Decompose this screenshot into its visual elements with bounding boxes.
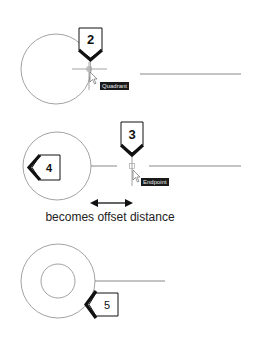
callout-3-number: 3: [128, 127, 135, 142]
step2-group: 3 4: [23, 122, 241, 207]
cursor-arrow-icon-2: [133, 170, 140, 182]
callout-2-number: 2: [87, 32, 94, 47]
circle-3-outer: [21, 244, 95, 318]
callout-2: 2: [79, 28, 102, 60]
callout-3: 3: [121, 122, 143, 155]
step3-group: 5: [21, 244, 165, 318]
offset-distance-caption: becomes offset distance: [0, 210, 220, 224]
circle-3-inner: [41, 264, 75, 298]
endpoint-snap-tooltip: Endpoint: [141, 178, 169, 186]
callout-5-number: 5: [104, 299, 110, 311]
step1-group: 2: [21, 28, 241, 104]
callout-5: 5: [86, 291, 118, 318]
cursor-arrow-icon: [90, 72, 97, 84]
callout-4-number: 4: [46, 162, 53, 174]
double-arrow-icon: [90, 199, 133, 207]
callout-4: 4: [29, 155, 60, 180]
diagram-canvas: 2 3 4: [0, 0, 255, 339]
quadrant-snap-tooltip: Quadrant: [100, 82, 129, 90]
